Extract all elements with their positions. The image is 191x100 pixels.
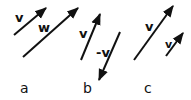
vector-v-label: v	[15, 10, 24, 25]
vector-neg-v-label: -v	[96, 45, 110, 60]
caption-c: c	[144, 80, 152, 96]
caption-b: b	[83, 80, 92, 96]
vector-diagram: v w a v -v b v v c	[0, 0, 191, 100]
caption-a: a	[20, 80, 29, 96]
vector-v-long-label: v	[145, 19, 154, 34]
figure-b: v -v b	[79, 14, 120, 96]
vector-v-long-arrow	[134, 6, 173, 60]
vector-w-label: w	[38, 20, 50, 35]
vector-v-label: v	[79, 26, 88, 41]
figure-a: v w a	[14, 8, 78, 96]
vector-v-short-label: v	[165, 38, 173, 51]
vector-w-arrow	[23, 8, 78, 57]
figure-c: v v c	[134, 6, 183, 96]
